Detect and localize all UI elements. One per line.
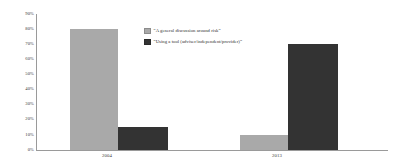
x-axis-label-2004: 2004 — [82, 154, 132, 159]
y-axis-tick-label: 70% — [4, 42, 34, 47]
bar-2013-series-2 — [288, 44, 338, 150]
legend-swatch-icon-dark — [144, 39, 151, 46]
bar-2013-series-1 — [240, 135, 288, 150]
legend-item-series-1: “A general discussion around risk” — [144, 26, 242, 36]
y-axis-tick-label: 90% — [4, 12, 34, 17]
legend-item-series-2: “Using a tool (adviser/independent/provi… — [144, 37, 242, 47]
y-axis-tick-label: 20% — [4, 117, 34, 122]
y-axis-tick-label: 80% — [4, 27, 34, 32]
y-axis-tick-label: 30% — [4, 102, 34, 107]
y-axis-tick-label: 60% — [4, 57, 34, 62]
legend: “A general discussion around risk” “Usin… — [144, 26, 242, 48]
y-axis-tick-labels: 90% 80% 70% 60% 50% 40% 30% 20% 10% 0% — [0, 0, 34, 168]
x-axis-label-2013: 2013 — [252, 154, 302, 159]
x-axis-line — [36, 150, 388, 151]
bar-chart: 90% 80% 70% 60% 50% 40% 30% 20% 10% 0% 2… — [0, 0, 394, 168]
legend-swatch-icon-light — [144, 28, 151, 35]
legend-label-series-2: “Using a tool (adviser/independent/provi… — [154, 40, 243, 45]
y-axis-tick-label: 40% — [4, 87, 34, 92]
bar-2004-series-1 — [70, 29, 118, 150]
y-axis-tick-label: 50% — [4, 72, 34, 77]
bar-2004-series-2 — [118, 127, 168, 150]
y-axis-tick-label: 0% — [4, 148, 34, 153]
y-axis-tick-label: 10% — [4, 133, 34, 138]
legend-label-series-1: “A general discussion around risk” — [154, 29, 221, 34]
